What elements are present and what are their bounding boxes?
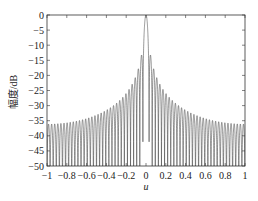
x-tick-label: 0.4 bbox=[179, 170, 192, 181]
pattern-series bbox=[47, 15, 245, 166]
x-tick-label: −0.2 bbox=[117, 170, 135, 181]
y-tick-label: −25 bbox=[28, 85, 44, 96]
y-tick-label: 0 bbox=[39, 10, 44, 21]
x-axis-label: u bbox=[144, 181, 149, 192]
x-tick-label: 0.6 bbox=[199, 170, 212, 181]
x-axis: −1−0.8−0.6−0.4−0.200.20.40.60.81 bbox=[42, 15, 248, 181]
axes-frame bbox=[47, 15, 245, 166]
beam-pattern-chart: 0−5−10−15−20−25−30−35−40−45−50 −1−0.8−0.… bbox=[0, 0, 258, 201]
x-tick-label: −0.8 bbox=[58, 170, 76, 181]
x-tick-label: 1 bbox=[243, 170, 248, 181]
y-tick-label: −35 bbox=[28, 115, 44, 126]
x-tick-label: −0.4 bbox=[97, 170, 115, 181]
x-tick-label: −1 bbox=[42, 170, 53, 181]
y-axis-label: 幅度/dB bbox=[7, 74, 19, 109]
y-tick-label: −30 bbox=[28, 100, 44, 111]
x-tick-label: −0.6 bbox=[78, 170, 96, 181]
y-tick-label: −10 bbox=[28, 40, 44, 51]
y-tick-label: −40 bbox=[28, 130, 44, 141]
plot-area bbox=[47, 15, 245, 166]
y-tick-label: −45 bbox=[28, 145, 44, 156]
y-tick-label: −5 bbox=[33, 25, 44, 36]
pattern-line bbox=[47, 15, 245, 166]
x-tick-label: 0.8 bbox=[219, 170, 232, 181]
y-tick-label: −20 bbox=[28, 70, 44, 81]
x-tick-label: 0 bbox=[144, 170, 149, 181]
y-tick-label: −15 bbox=[28, 55, 44, 66]
x-tick-label: 0.2 bbox=[160, 170, 173, 181]
